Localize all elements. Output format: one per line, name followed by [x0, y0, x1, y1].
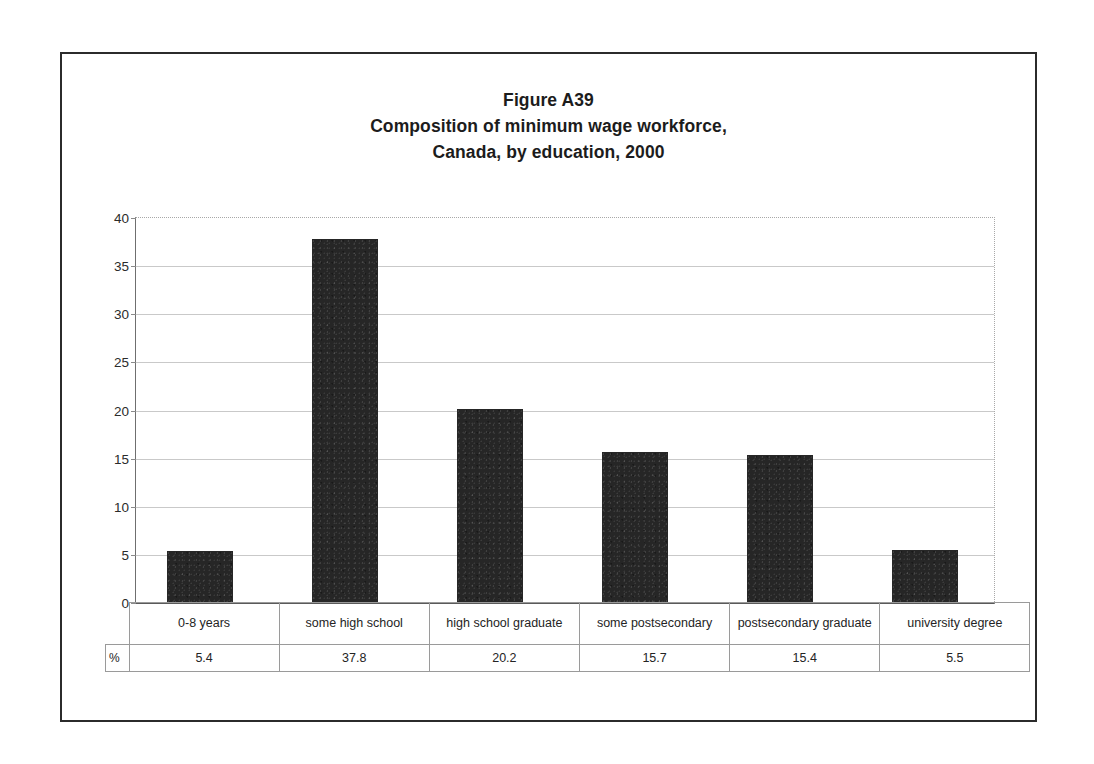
- bar-some-high-school: [312, 239, 378, 603]
- bar-high-school-graduate: [457, 409, 523, 603]
- figure-number: Figure A39: [62, 87, 1035, 113]
- y-axis-tick-mark-15: [131, 459, 136, 460]
- table-value-cell: 5.5: [880, 645, 1030, 672]
- table-value-cell: 15.4: [730, 645, 880, 672]
- table-corner-blank: [106, 603, 130, 645]
- bar-postsecondary-graduate: [747, 455, 813, 603]
- data-table: 0-8 yearssome high schoolhigh school gra…: [105, 602, 1030, 672]
- gridline-20: [136, 411, 994, 412]
- y-axis-tick-label-15: 15: [114, 451, 129, 466]
- y-axis-tick-label-40: 40: [114, 211, 129, 226]
- table-value-cell: 15.7: [579, 645, 729, 672]
- plot-area: 0510152025303540: [135, 217, 995, 604]
- table-header-cell: postsecondary graduate: [730, 603, 880, 645]
- figure-title-block: Figure A39 Composition of minimum wage w…: [62, 87, 1035, 165]
- table-row-categories: 0-8 yearssome high schoolhigh school gra…: [106, 603, 1030, 645]
- bar-some-postsecondary: [602, 452, 668, 603]
- unit-label-cell: %: [106, 645, 130, 672]
- gridline-10: [136, 507, 994, 508]
- y-axis-tick-mark-10: [131, 507, 136, 508]
- gridline-5: [136, 555, 994, 556]
- y-axis-tick-label-5: 5: [121, 547, 129, 562]
- y-axis-tick-mark-5: [131, 555, 136, 556]
- table-value-cell: 20.2: [429, 645, 579, 672]
- y-axis-tick-mark-35: [131, 266, 136, 267]
- table-row-values: % 5.437.820.215.715.45.5: [106, 645, 1030, 672]
- table-value-cell: 5.4: [129, 645, 279, 672]
- table-header-cell: some high school: [279, 603, 429, 645]
- y-axis-tick-label-35: 35: [114, 259, 129, 274]
- chart-area: 0510152025303540: [107, 209, 997, 609]
- gridline-25: [136, 362, 994, 363]
- table-header-cell: 0-8 years: [129, 603, 279, 645]
- y-axis-tick-label-10: 10: [114, 499, 129, 514]
- y-axis-tick-label-30: 30: [114, 307, 129, 322]
- table-header-cell: some postsecondary: [579, 603, 729, 645]
- gridline-35: [136, 266, 994, 267]
- y-axis-tick-label-20: 20: [114, 403, 129, 418]
- figure-title-line-1: Composition of minimum wage workforce,: [62, 113, 1035, 139]
- bar-0-8-years: [167, 551, 233, 603]
- y-axis-tick-mark-25: [131, 362, 136, 363]
- y-axis-tick-label-25: 25: [114, 355, 129, 370]
- gridline-30: [136, 314, 994, 315]
- table-header-cell: high school graduate: [429, 603, 579, 645]
- bar-university-degree: [892, 550, 958, 603]
- figure-title-line-2: Canada, by education, 2000: [62, 139, 1035, 165]
- table-header-cell: university degree: [880, 603, 1030, 645]
- y-axis-tick-mark-30: [131, 314, 136, 315]
- gridline-15: [136, 459, 994, 460]
- y-axis-tick-mark-40: [131, 218, 136, 219]
- y-axis-tick-mark-20: [131, 411, 136, 412]
- table-value-cell: 37.8: [279, 645, 429, 672]
